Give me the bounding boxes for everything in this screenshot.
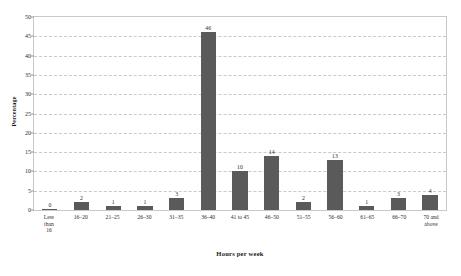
bar-value-label: 3	[175, 191, 178, 197]
bar-value-label: 3	[397, 191, 400, 197]
x-axis-tick-label: 56–60	[320, 214, 352, 234]
bar-value-label: 2	[80, 195, 83, 201]
plot-area: 05101520253035404550 02113461014213134	[33, 16, 447, 211]
bar[interactable]: 1	[106, 206, 121, 210]
bar[interactable]: 4	[422, 195, 437, 210]
y-axis-tick-label: 50	[25, 14, 31, 20]
bar-slot: 1	[351, 17, 383, 210]
x-axis-tick-label: 16–20	[65, 214, 97, 234]
bar[interactable]: 2	[74, 202, 89, 210]
bar-value-label: 46	[205, 25, 211, 31]
x-axis-tick-label: 41 to 45	[224, 214, 256, 234]
y-axis-tick-label: 5	[28, 188, 31, 194]
bar-slot: 0	[34, 17, 66, 210]
y-axis-tick-label: 20	[25, 130, 31, 136]
bar-slot: 3	[383, 17, 415, 210]
x-axis-tick-label: 46–50	[256, 214, 288, 234]
bar-slot: 2	[66, 17, 98, 210]
x-axis-tick-label: 21–25	[97, 214, 129, 234]
bar-series: 02113461014213134	[34, 17, 446, 210]
x-axis-tick-label: 31–35	[160, 214, 192, 234]
bar-value-label: 14	[269, 149, 275, 155]
bar-slot: 14	[256, 17, 288, 210]
y-axis-tick-label: 45	[25, 33, 31, 39]
bar-slot: 1	[129, 17, 161, 210]
y-axis-tick-label: 25	[25, 111, 31, 117]
y-axis-tick-label: 10	[25, 168, 31, 174]
x-axis-tick-label: 36–40	[192, 214, 224, 234]
bar-value-label: 13	[332, 153, 338, 159]
bar-slot: 46	[192, 17, 224, 210]
bar[interactable]: 13	[327, 160, 342, 210]
y-axis-tick-label: 15	[25, 149, 31, 155]
bar-value-label: 1	[112, 199, 115, 205]
bar-slot: 2	[288, 17, 320, 210]
bar-value-label: 2	[302, 195, 305, 201]
bar-slot: 10	[224, 17, 256, 210]
bar-slot: 3	[161, 17, 193, 210]
bar-value-label: 0	[48, 202, 51, 208]
bar[interactable]: 3	[391, 198, 406, 210]
bar[interactable]: 46	[201, 32, 216, 210]
y-axis-tick-label: 35	[25, 72, 31, 78]
bar[interactable]: 10	[232, 171, 247, 210]
y-axis-title: Percentage	[10, 77, 17, 147]
bar-slot: 1	[97, 17, 129, 210]
x-axis-tick-label: 66–70	[383, 214, 415, 234]
bar-chart: Percentage 05101520253035404550 02113461…	[0, 0, 461, 276]
bar[interactable]: 0	[42, 209, 57, 210]
x-axis-title: Hours per week	[33, 250, 447, 257]
bar-slot: 13	[319, 17, 351, 210]
bar-value-label: 10	[237, 164, 243, 170]
bar-value-label: 1	[365, 199, 368, 205]
x-axis-tick-label: Less than 16	[33, 214, 65, 234]
x-axis-tick-label: 70 and above	[415, 214, 447, 234]
bar[interactable]: 1	[137, 206, 152, 210]
bar[interactable]: 3	[169, 198, 184, 210]
bar[interactable]: 14	[264, 156, 279, 210]
bar-slot: 4	[414, 17, 446, 210]
x-axis-tick-labels: Less than 1616–2021–2526–3031–3536–4041 …	[33, 214, 447, 234]
bar-value-label: 1	[143, 199, 146, 205]
x-axis-tick-label: 61–65	[351, 214, 383, 234]
x-axis-tick-label: 51–55	[288, 214, 320, 234]
y-axis-tick-label: 0	[28, 207, 31, 213]
bar-value-label: 4	[429, 188, 432, 194]
bar[interactable]: 1	[359, 206, 374, 210]
x-axis-tick-label: 26–30	[129, 214, 161, 234]
y-axis-tick-label: 30	[25, 91, 31, 97]
y-axis-tick-label: 40	[25, 53, 31, 59]
top-caption-strip	[0, 0, 461, 12]
bar[interactable]: 2	[296, 202, 311, 210]
